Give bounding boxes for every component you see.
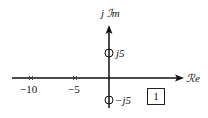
zero-label-j5: j5: [116, 48, 125, 59]
figure-number-box: 1: [147, 88, 165, 105]
imag-prefix: j: [101, 7, 104, 19]
pole-label-neg5: −5: [68, 84, 80, 95]
real-axis-label: ℛe: [186, 73, 200, 84]
imag-label-text: ℐm: [107, 7, 120, 19]
zero-label-neg-j5: −j5: [115, 95, 131, 106]
imag-axis-label: j ℐm: [101, 8, 120, 19]
pole-label-neg10: −10: [20, 84, 37, 95]
